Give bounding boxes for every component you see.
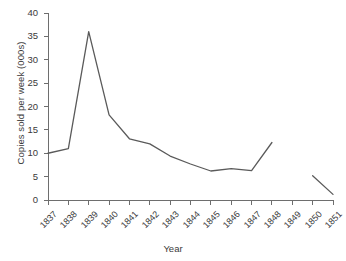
y-tick-label: 35 [16, 31, 38, 41]
y-tick-label: 30 [16, 55, 38, 65]
y-tick-label: 10 [16, 148, 38, 158]
y-tick-label: 25 [16, 78, 38, 88]
x-axis-title: Year [0, 243, 346, 254]
y-tick-label: 15 [16, 125, 38, 135]
line-chart: Copies sold per week (000s) 051015202530… [0, 0, 346, 261]
y-tick-label: 40 [16, 8, 38, 18]
series-line-0 [48, 32, 272, 171]
y-tick-label: 5 [16, 172, 38, 182]
y-tick-label: 20 [16, 102, 38, 112]
y-tick-label: 0 [16, 195, 38, 205]
series-line-1 [313, 176, 333, 195]
